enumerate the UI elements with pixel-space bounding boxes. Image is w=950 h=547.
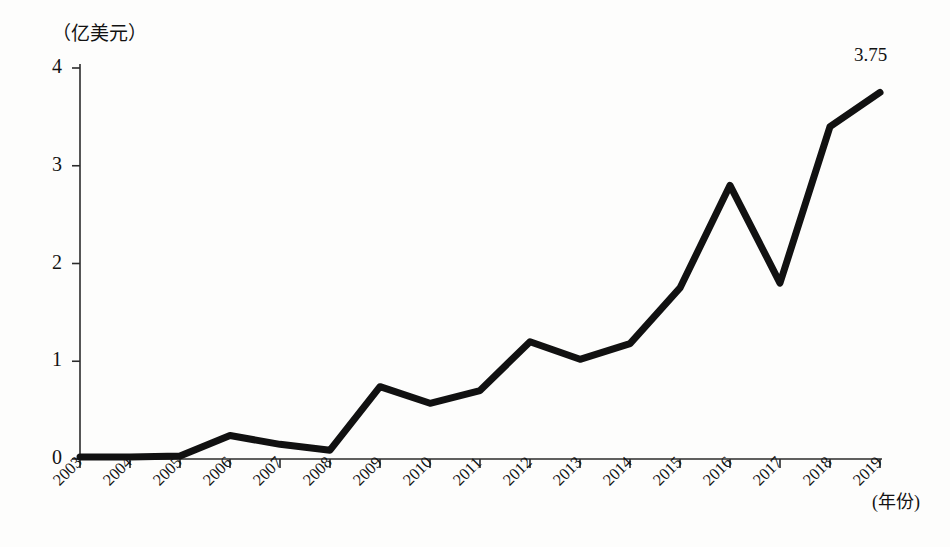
x-axis-title: (年份) [872, 487, 920, 513]
data-point-annotation: 3.75 [854, 44, 887, 66]
y-tick-label: 1 [32, 348, 62, 371]
data-series-line [80, 92, 880, 457]
y-tick-label: 4 [32, 55, 62, 78]
axes-group [80, 64, 882, 459]
chart-container: （亿美元） 01234 2003200420052006200720082009… [0, 0, 950, 547]
y-tick-label: 2 [32, 251, 62, 274]
y-tick-label: 3 [32, 153, 62, 176]
y-tick-marks [72, 68, 80, 459]
